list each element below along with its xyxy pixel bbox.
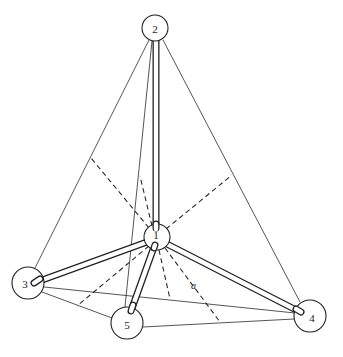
dash-1-to-edge-2-4 <box>166 175 232 229</box>
dash-1-to-edge-3-4 <box>159 250 170 299</box>
atom-label-3: 3 <box>22 278 28 290</box>
atom-label-5: 5 <box>124 319 130 331</box>
edge-2-3 <box>35 40 149 268</box>
atom-label-1: 1 <box>153 229 159 241</box>
atom-label-2: 2 <box>152 23 158 35</box>
atom-2: 2 <box>142 15 168 41</box>
tetrahedron-edges <box>35 40 300 327</box>
bonds <box>34 36 300 312</box>
atom-3: 3 <box>12 267 44 299</box>
atom-label-4: 4 <box>309 312 315 324</box>
edge-2-4 <box>163 40 300 302</box>
atom-4: 4 <box>294 300 326 332</box>
label-a: a <box>191 280 196 291</box>
atom-1: 1 <box>144 224 170 250</box>
atom-5: 5 <box>111 305 143 339</box>
tetrahedron-diagram: 2 3 4 5 1 a <box>0 0 343 357</box>
dash-1-to-edge-2-3 <box>91 158 149 228</box>
edge-3-5 <box>42 292 112 318</box>
